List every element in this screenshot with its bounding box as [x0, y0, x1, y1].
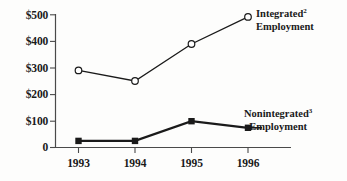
- y-tick-label: $200: [26, 88, 48, 100]
- x-tick-label-1994: 1994: [124, 157, 147, 169]
- y-tick-label: $100: [26, 115, 48, 127]
- chart-container: $500 $400 $300 $200 $100 0 1993 1994 199…: [0, 0, 347, 181]
- x-tick-label-1995: 1995: [180, 157, 203, 169]
- data-point-marker: [188, 118, 194, 124]
- x-axis-ticks: [79, 148, 249, 154]
- data-point-marker: [132, 138, 138, 144]
- y-tick-label: $500: [26, 9, 48, 21]
- series-nonintegrated-employment: [75, 118, 262, 144]
- series-integrated-line: [79, 17, 249, 81]
- series-integrated-employment: [75, 14, 251, 85]
- data-point-marker: [75, 138, 81, 144]
- y-axis-ticks: [50, 15, 56, 148]
- data-point-marker: [245, 14, 252, 21]
- footnote-marker: 3: [309, 107, 313, 115]
- series-label-text-line2: Employment: [256, 21, 314, 34]
- y-tick-label: $400: [26, 35, 48, 47]
- series-label-text: Integrated: [256, 8, 303, 19]
- series-label-text: Nonintegrated: [244, 108, 309, 119]
- y-tick-label: 0: [42, 141, 48, 153]
- series-label-text-line2: Employment: [244, 121, 312, 134]
- y-axis-tick-labels: $500 $400 $300 $200 $100 0: [0, 0, 48, 181]
- series-label-nonintegrated-employment: Nonintegrated3 Employment: [244, 108, 312, 133]
- series-label-integrated-employment: Integrated2 Employment: [256, 8, 314, 33]
- data-point-marker: [75, 67, 82, 74]
- footnote-marker: 2: [303, 7, 307, 15]
- x-tick-label-1993: 1993: [67, 157, 90, 169]
- y-tick-label: $300: [26, 62, 48, 74]
- series-nonintegrated-line: [79, 121, 249, 141]
- x-tick-label-1996: 1996: [237, 157, 260, 169]
- data-point-marker: [132, 78, 139, 85]
- data-point-marker: [188, 41, 195, 48]
